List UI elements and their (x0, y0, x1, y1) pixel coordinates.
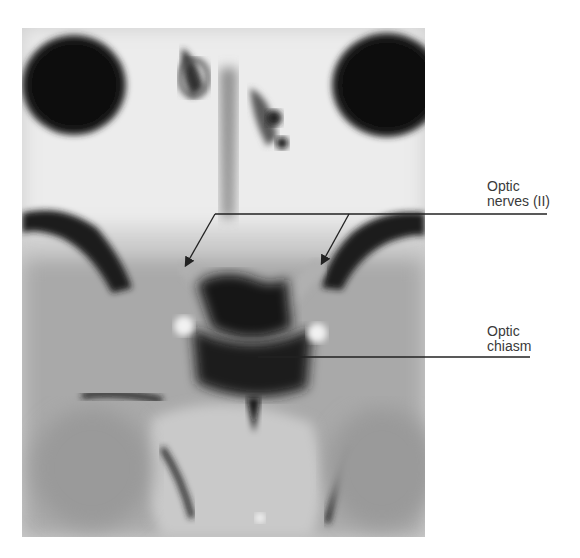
optic-nerves-leader (186, 214, 547, 265)
optic-nerves-label: Optic nerves (II) (487, 179, 550, 209)
optic-chiasm-label: Optic chiasm (487, 324, 531, 354)
annotation-lines (0, 0, 580, 558)
